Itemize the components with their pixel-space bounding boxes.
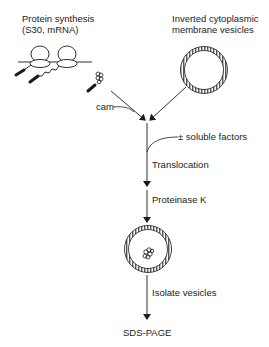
step-proteinase-k: Proteinase K (152, 194, 206, 205)
step-isolate-vesicles: Isolate vesicles (152, 287, 216, 298)
vesicles-sublabel: membrane vesicles (172, 24, 254, 35)
output-sds-page: SDS-PAGE (123, 327, 171, 338)
protein-arrow (111, 91, 145, 120)
ribosome-mrna-icon (16, 46, 92, 82)
inverted-vesicle-icon (181, 47, 228, 94)
step-translocation: Translocation (152, 159, 209, 170)
protein-synthesis-label: Protein synthesis (22, 13, 94, 24)
soluble-factors-label: ± soluble factors (178, 131, 247, 142)
protein-synthesis-sublabel: (S30, mRNA) (22, 24, 78, 35)
protected-protein-icon (143, 248, 154, 259)
vesicle-arrow (150, 87, 186, 120)
protected-vesicle-icon (125, 226, 172, 273)
soluble-factors-connector (147, 137, 178, 152)
diagram-canvas (0, 0, 269, 347)
vesicles-label: Inverted cytoplasmic (172, 13, 259, 24)
cam-label: cam (96, 101, 114, 112)
folded-protein-icon (88, 72, 103, 91)
